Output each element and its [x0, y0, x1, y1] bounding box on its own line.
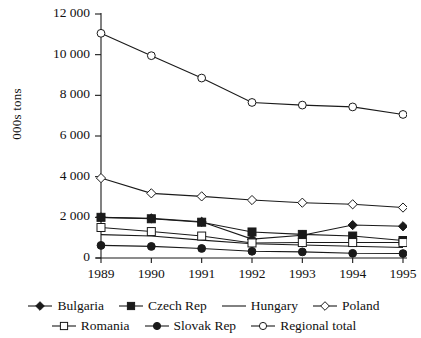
open-circle-marker	[298, 101, 306, 109]
filled-circle-marker	[198, 245, 206, 253]
open-circle-marker	[248, 99, 256, 107]
open-square-legend-icon	[51, 320, 77, 332]
legend-item-czech-rep[interactable]: Czech Rep	[118, 298, 207, 314]
filled-square-legend-icon	[118, 300, 144, 312]
legend-item-label: Bulgaria	[57, 298, 104, 314]
open-square-marker	[147, 228, 155, 236]
open-diamond-marker	[398, 203, 407, 212]
filled-square-marker	[298, 230, 306, 238]
open-circle-marker	[147, 52, 155, 60]
filled-square-marker	[147, 215, 155, 223]
legend-item-label: Hungary	[251, 298, 298, 314]
filled-diamond-marker	[398, 222, 407, 231]
series-regional-total	[97, 29, 407, 118]
open-square-marker	[198, 232, 206, 240]
legend-row: BulgariaCzech RepHungaryPoland	[0, 296, 407, 316]
open-circle-marker	[349, 103, 357, 111]
legend-item-regional-total[interactable]: Regional total	[250, 318, 356, 334]
open-square-marker	[298, 239, 306, 247]
open-square-marker	[97, 224, 105, 232]
filled-circle-legend-icon	[144, 320, 170, 332]
legend-item-poland[interactable]: Poland	[312, 298, 380, 314]
filled-diamond-legend-icon	[27, 300, 53, 312]
open-circle-marker	[399, 111, 407, 119]
legend-item-hungary[interactable]: Hungary	[221, 298, 298, 314]
filled-diamond-marker	[348, 220, 357, 229]
open-diamond-marker	[247, 195, 256, 204]
series-poland	[96, 173, 407, 212]
legend-row: RomaniaSlovak RepRegional total	[0, 316, 407, 336]
filled-circle-marker	[97, 241, 105, 249]
open-circle-legend-icon	[250, 320, 276, 332]
open-square-marker	[399, 239, 407, 247]
legend-item-label: Czech Rep	[148, 298, 207, 314]
filled-circle-marker	[298, 248, 306, 256]
chart-legend: BulgariaCzech RepHungaryPolandRomaniaSlo…	[0, 296, 407, 336]
open-diamond-marker	[348, 200, 357, 209]
open-diamond-marker	[96, 173, 105, 182]
open-diamond-marker	[197, 192, 206, 201]
legend-item-label: Regional total	[280, 318, 356, 334]
legend-item-romania[interactable]: Romania	[51, 318, 130, 334]
legend-item-label: Romania	[81, 318, 130, 334]
filled-circle-marker	[248, 247, 256, 255]
filled-square-marker	[248, 228, 256, 236]
legend-item-bulgaria[interactable]: Bulgaria	[27, 298, 104, 314]
legend-item-slovak-rep[interactable]: Slovak Rep	[144, 318, 237, 334]
open-diamond-marker	[147, 189, 156, 198]
filled-circle-marker	[399, 250, 407, 258]
open-square-marker	[248, 239, 256, 247]
filled-square-marker	[97, 213, 105, 221]
open-circle-marker	[198, 74, 206, 82]
legend-item-label: Slovak Rep	[174, 318, 237, 334]
open-diamond-marker	[298, 198, 307, 207]
legend-item-label: Poland	[342, 298, 380, 314]
open-circle-marker	[97, 29, 105, 37]
open-diamond-legend-icon	[312, 300, 338, 312]
filled-circle-marker	[147, 243, 155, 251]
line-legend-icon	[221, 300, 247, 312]
open-square-marker	[349, 239, 357, 247]
filled-circle-marker	[349, 249, 357, 257]
filled-square-marker	[198, 218, 206, 226]
